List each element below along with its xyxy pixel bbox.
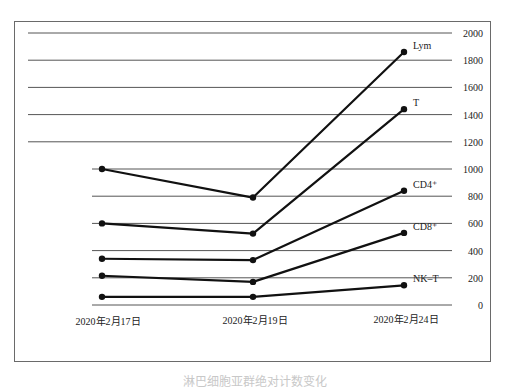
x-axis-labels: 2020年2月17日2020年2月19日2020年2月24日 [76, 313, 439, 327]
series-t: T [99, 97, 419, 237]
y-tick-label: 1400 [463, 110, 483, 121]
data-point [401, 49, 407, 55]
series-label: Lym [413, 40, 432, 51]
data-point [401, 282, 407, 288]
data-point [250, 194, 256, 200]
x-tick-label: 2020年2月17日 [76, 315, 141, 327]
series-line [102, 52, 404, 198]
data-point [99, 220, 105, 226]
data-point [250, 294, 256, 300]
y-tick-label: 1000 [463, 164, 483, 175]
data-point [250, 257, 256, 263]
data-point [99, 256, 105, 262]
series-label: CD8⁺ [413, 221, 437, 232]
data-point [401, 106, 407, 112]
data-point [401, 188, 407, 194]
y-tick-label: 800 [468, 191, 483, 202]
y-axis-ticks: 0200400600800100012001400160018002000 [463, 28, 483, 311]
y-tick-label: 2000 [463, 28, 483, 39]
series-lym: Lym [99, 40, 432, 201]
gridlines [28, 33, 452, 305]
y-tick-label: 1800 [463, 55, 483, 66]
series-line [102, 109, 404, 233]
y-tick-label: 0 [478, 300, 483, 311]
series-label: CD4⁺ [413, 179, 437, 190]
data-point [401, 230, 407, 236]
data-point [250, 279, 256, 285]
x-tick-label: 2020年2月19日 [223, 314, 288, 326]
y-tick-label: 200 [468, 273, 483, 284]
series-label: NK–T [413, 273, 439, 284]
y-tick-label: 400 [468, 246, 483, 257]
data-point [99, 273, 105, 279]
x-tick-label: 2020年2月24日 [374, 313, 439, 325]
y-tick-label: 600 [468, 218, 483, 229]
data-point [99, 294, 105, 300]
y-tick-label: 1200 [463, 137, 483, 148]
data-point [250, 230, 256, 236]
figure-caption: 淋巴细胞亚群绝对计数变化 [0, 372, 509, 390]
data-series: LymTCD4⁺CD8⁺NK–T [99, 40, 439, 300]
series-label: T [413, 97, 419, 108]
y-tick-label: 1600 [463, 82, 483, 93]
data-point [99, 166, 105, 172]
